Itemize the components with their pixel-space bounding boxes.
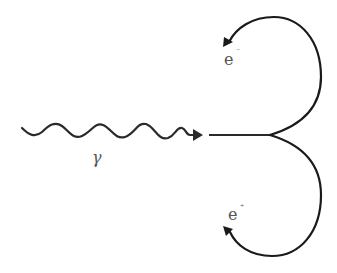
positron-charge: ⁺	[240, 203, 244, 212]
positron-track	[223, 135, 321, 256]
electron-label: e	[224, 50, 233, 69]
photon-line	[22, 124, 203, 141]
electron-charge: ⁻	[236, 47, 240, 56]
positron-label: e	[228, 205, 237, 224]
pair-production-diagram: γ e ⁻ e ⁺	[0, 0, 337, 273]
photon-label: γ	[92, 148, 102, 167]
photon-arrowhead-icon	[193, 129, 203, 141]
electron-track	[223, 17, 321, 135]
